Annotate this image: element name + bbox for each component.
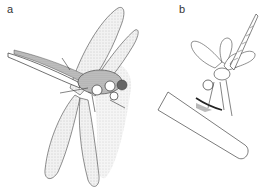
dragonfly-a xyxy=(8,7,138,186)
dragonfly-b xyxy=(158,14,258,159)
illustration xyxy=(0,0,260,193)
